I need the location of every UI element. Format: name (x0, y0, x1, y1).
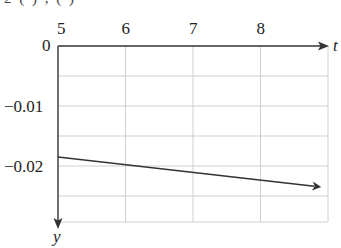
x-tick-label: 8 (257, 20, 266, 37)
data-series (58, 157, 321, 190)
y-axis-label: y (53, 228, 61, 245)
y-tick-label: −0.01 (4, 98, 43, 115)
x-tick-label: 7 (189, 20, 198, 37)
x-axis-label: t (333, 37, 338, 54)
origin-label: 0 (42, 37, 51, 54)
x-tick-label: 5 (57, 20, 66, 37)
grid-lines (58, 46, 328, 222)
axes (54, 42, 330, 230)
y-tick-label: −0.02 (4, 158, 43, 175)
line-chart (0, 0, 341, 248)
series-line (58, 157, 314, 186)
x-tick-label: 6 (122, 20, 131, 37)
